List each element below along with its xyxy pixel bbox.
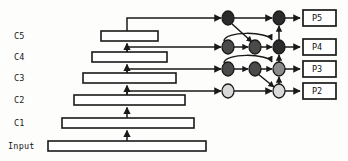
output-label-p4: P4 <box>312 43 322 52</box>
level-label-input: Input <box>8 142 35 151</box>
fpn-diagram-canvas: C5 C4 C3 C2 C1 Input P5 P4 P3 P2 <box>0 0 348 161</box>
topdown-curved-lines <box>224 23 274 87</box>
diagram-svg <box>0 0 348 161</box>
level-label-c5: C5 <box>14 32 25 41</box>
curve-p4-skip-to-c-p3 <box>224 55 272 63</box>
level-label-c4: C4 <box>14 53 25 62</box>
curve-p5-skip-to-c-p4 <box>224 33 272 41</box>
node-a-p5[interactable] <box>222 11 234 25</box>
node-b-p3[interactable] <box>249 62 261 76</box>
output-arrows <box>285 18 300 91</box>
node-a-p3[interactable] <box>222 62 234 76</box>
bar-c2 <box>74 95 185 105</box>
node-a-p4[interactable] <box>222 40 234 54</box>
pyramid-nodes <box>222 11 285 98</box>
node-b-p4[interactable] <box>249 40 261 54</box>
level-label-c1: C1 <box>14 119 25 128</box>
output-label-p5: P5 <box>312 14 322 23</box>
output-label-p3: P3 <box>312 65 322 74</box>
level-label-c3: C3 <box>14 74 25 83</box>
node-a-p2[interactable] <box>222 84 234 98</box>
node-c-p5[interactable] <box>273 11 285 25</box>
diag-a-p5-to-b-p4 <box>231 23 252 42</box>
lateral-c5-to-node <box>127 18 221 31</box>
level-label-c2: C2 <box>14 96 25 105</box>
node-c-p2[interactable] <box>273 84 285 98</box>
node-c-p4[interactable] <box>273 40 285 54</box>
node-c-p3[interactable] <box>273 62 285 76</box>
bar-c1 <box>62 118 194 128</box>
diag-b-p3-to-c-p2 <box>258 74 274 87</box>
bar-c4 <box>92 52 167 62</box>
bar-input <box>48 141 206 151</box>
output-label-p2: P2 <box>312 87 322 96</box>
bar-c3 <box>83 73 176 83</box>
bar-c5 <box>101 31 158 41</box>
